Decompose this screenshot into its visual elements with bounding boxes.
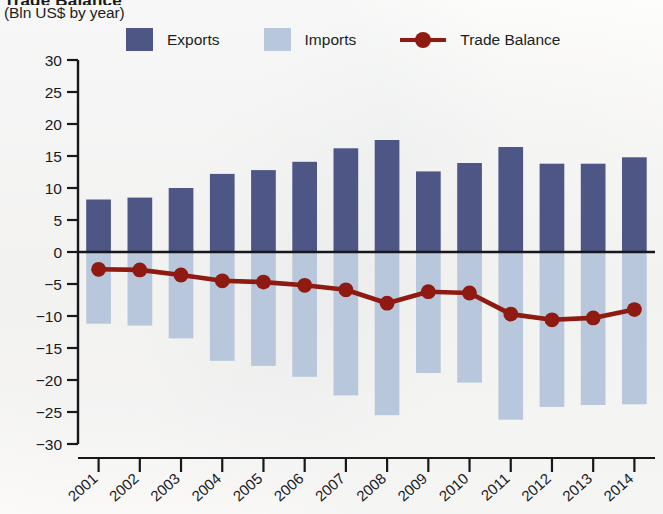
trade-balance-point-2007 [339, 282, 354, 297]
bar-exports-2014 [622, 157, 647, 252]
trade-balance-point-2004 [215, 273, 230, 288]
x-tick-label-2001: 2001 [64, 470, 100, 505]
bar-exports-2006 [292, 162, 317, 252]
bar-imports-2011 [498, 252, 523, 420]
bars-group [86, 140, 647, 420]
y-tick-label--5: −5 [44, 276, 62, 293]
trade-balance-point-2003 [174, 268, 189, 283]
trade-balance-point-2012 [545, 312, 560, 327]
bar-imports-2005 [251, 252, 276, 366]
bar-exports-2003 [169, 188, 194, 252]
bar-exports-2012 [540, 164, 565, 252]
chart-plot-area: 302520151050−5−10−15−20−25−3020012002200… [0, 0, 663, 514]
bar-imports-2012 [540, 252, 565, 407]
bar-exports-2005 [251, 170, 276, 252]
bar-imports-2014 [622, 252, 647, 404]
bar-exports-2009 [416, 171, 441, 252]
chart-canvas: 302520151050−5−10−15−20−25−3020012002200… [0, 0, 663, 514]
bar-imports-2003 [169, 252, 194, 338]
y-axis: 302520151050−5−10−15−20−25−30 [36, 52, 78, 453]
x-tick-label-2004: 2004 [188, 470, 224, 505]
trade-balance-point-2001 [91, 262, 106, 277]
bar-imports-2009 [416, 252, 441, 373]
y-tick-label-25: 25 [45, 84, 62, 101]
x-tick-label-2011: 2011 [477, 470, 512, 504]
x-axis: 2001200220032004200520062007200820092010… [64, 458, 655, 505]
bar-imports-2004 [210, 252, 235, 361]
x-tick-label-2013: 2013 [559, 470, 595, 505]
y-tick-label-30: 30 [45, 52, 63, 69]
x-tick-label-2006: 2006 [271, 470, 307, 505]
trade-balance-point-2014 [627, 302, 642, 317]
x-tick-label-2014: 2014 [600, 470, 636, 505]
y-tick-label--15: −15 [36, 340, 62, 357]
y-tick-label-15: 15 [45, 148, 62, 165]
trade-balance-point-2009 [421, 284, 436, 299]
bar-imports-2008 [375, 252, 400, 415]
trade-balance-point-2013 [586, 311, 601, 326]
y-tick-label-5: 5 [53, 212, 62, 229]
bar-imports-2007 [334, 252, 359, 395]
bar-imports-2006 [292, 252, 317, 377]
x-tick-label-2007: 2007 [312, 470, 348, 505]
bar-exports-2010 [457, 163, 482, 252]
trade-balance-point-2008 [380, 296, 395, 311]
y-tick-label--20: −20 [36, 372, 63, 389]
x-tick-label-2008: 2008 [353, 470, 389, 505]
bar-exports-2002 [128, 198, 153, 252]
trade-balance-point-2011 [503, 307, 518, 322]
x-tick-label-2003: 2003 [147, 470, 183, 505]
bar-exports-2008 [375, 140, 400, 252]
y-tick-label--30: −30 [36, 436, 63, 453]
bar-exports-2004 [210, 174, 235, 252]
x-tick-label-2005: 2005 [229, 470, 265, 505]
trade-balance-point-2010 [462, 286, 477, 301]
bar-exports-2011 [498, 147, 523, 252]
trade-balance-point-2006 [297, 278, 312, 293]
bar-exports-2013 [581, 164, 606, 252]
bar-exports-2001 [86, 200, 111, 253]
x-tick-label-2009: 2009 [394, 470, 430, 505]
y-tick-label-20: 20 [45, 116, 63, 133]
x-tick-label-2012: 2012 [518, 470, 554, 505]
bar-imports-2010 [457, 252, 482, 383]
y-tick-label--10: −10 [36, 308, 63, 325]
y-tick-label-0: 0 [53, 244, 62, 261]
x-tick-label-2010: 2010 [435, 470, 471, 505]
y-tick-label-10: 10 [45, 180, 63, 197]
trade-balance-point-2002 [132, 263, 147, 278]
bar-imports-2013 [581, 252, 606, 405]
y-tick-label--25: −25 [36, 404, 62, 421]
x-tick-label-2002: 2002 [106, 470, 142, 505]
bar-exports-2007 [334, 148, 359, 252]
trade-balance-point-2005 [256, 275, 271, 290]
